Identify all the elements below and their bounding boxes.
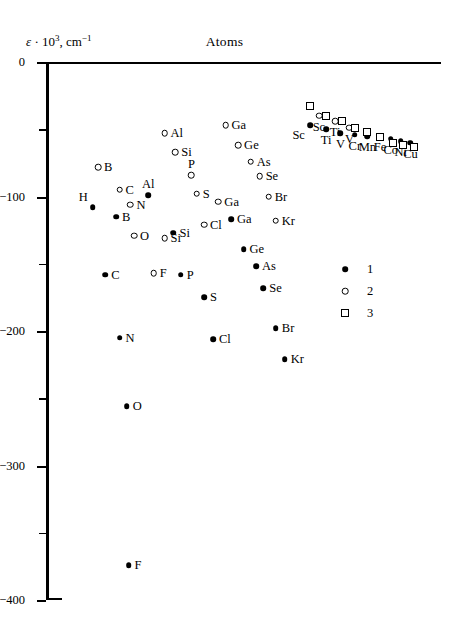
top-frame-line bbox=[46, 62, 441, 64]
data-point-open-square[interactable] bbox=[338, 117, 346, 125]
data-point-label: O bbox=[133, 400, 142, 413]
data-point-open-square[interactable] bbox=[351, 124, 359, 132]
data-point-label: Br bbox=[282, 322, 295, 335]
data-point-label: Ti bbox=[330, 126, 341, 139]
data-point-label: Ga bbox=[224, 196, 239, 209]
data-point-open-circle[interactable] bbox=[127, 201, 134, 208]
data-point-open-circle[interactable] bbox=[194, 191, 201, 198]
data-point-label: B bbox=[104, 161, 112, 174]
data-point-open-square[interactable] bbox=[363, 128, 371, 136]
data-point-label: Sc bbox=[292, 129, 305, 142]
data-point-open-circle[interactable] bbox=[172, 149, 179, 156]
data-point-filled-circle[interactable] bbox=[253, 264, 259, 270]
data-point-open-circle[interactable] bbox=[215, 199, 222, 206]
legend-label: 2 bbox=[367, 284, 373, 299]
data-point-filled-circle[interactable] bbox=[241, 246, 247, 252]
data-point-filled-circle[interactable] bbox=[117, 335, 123, 341]
chart-title: Atoms bbox=[0, 34, 449, 50]
plot-area: 0−100−200−300−400 HBCNOFAlSiPSClGaGeAsSe… bbox=[46, 62, 441, 600]
y-tick-label: 0 bbox=[19, 55, 25, 70]
data-point-label: Br bbox=[275, 190, 288, 203]
y-tick-label: −400 bbox=[0, 593, 25, 608]
data-point-label: Ge bbox=[250, 243, 265, 256]
y-tick-major bbox=[37, 331, 46, 333]
data-point-label: Al bbox=[142, 178, 155, 191]
data-point-label: S bbox=[203, 188, 210, 201]
data-point-filled-circle[interactable] bbox=[90, 204, 96, 210]
data-point-label: Ga bbox=[237, 213, 252, 226]
data-point-filled-circle[interactable] bbox=[126, 562, 132, 568]
legend-marker-open-circle bbox=[342, 288, 349, 295]
data-point-open-square[interactable] bbox=[306, 102, 314, 110]
data-point-label: H bbox=[79, 191, 88, 204]
y-tick-minor bbox=[39, 398, 46, 400]
data-point-open-circle[interactable] bbox=[247, 158, 254, 165]
data-point-label: Se bbox=[269, 282, 282, 295]
data-point-open-circle[interactable] bbox=[95, 164, 102, 171]
data-point-open-circle[interactable] bbox=[161, 130, 168, 137]
data-point-label: Ge bbox=[244, 139, 259, 152]
data-point-open-circle[interactable] bbox=[161, 235, 168, 242]
data-point-open-circle[interactable] bbox=[235, 142, 242, 149]
legend-row[interactable]: 3 bbox=[345, 302, 415, 324]
data-point-open-circle[interactable] bbox=[256, 173, 263, 180]
y-tick-major bbox=[37, 466, 46, 468]
legend-marker-filled-circle bbox=[342, 266, 348, 272]
legend-row[interactable]: 1 bbox=[345, 258, 415, 280]
data-point-label: O bbox=[140, 229, 149, 242]
data-point-open-circle[interactable] bbox=[131, 232, 138, 239]
data-point-label: C bbox=[111, 268, 119, 281]
data-point-filled-circle[interactable] bbox=[228, 217, 234, 223]
data-point-label: Sc bbox=[313, 121, 326, 134]
data-point-label: As bbox=[257, 155, 271, 168]
y-tick-label: −300 bbox=[0, 458, 25, 473]
data-point-open-square[interactable] bbox=[322, 112, 330, 120]
data-point-filled-circle[interactable] bbox=[210, 336, 216, 342]
y-tick-major bbox=[37, 197, 46, 199]
data-point-open-circle[interactable] bbox=[150, 270, 157, 277]
data-point-open-square[interactable] bbox=[399, 141, 407, 149]
y-tick-minor bbox=[39, 533, 46, 535]
legend-marker-open-square bbox=[341, 309, 349, 317]
legend-label: 3 bbox=[367, 306, 373, 321]
data-point-filled-circle[interactable] bbox=[273, 326, 279, 332]
y-axis-line bbox=[46, 62, 49, 600]
data-point-label: V bbox=[336, 138, 345, 151]
data-point-filled-circle[interactable] bbox=[260, 285, 266, 291]
data-point-open-circle[interactable] bbox=[116, 186, 123, 193]
data-point-filled-circle[interactable] bbox=[282, 356, 288, 362]
y-tick-major bbox=[37, 600, 46, 602]
y-tick-minor bbox=[39, 129, 46, 131]
data-point-open-circle[interactable] bbox=[222, 122, 229, 129]
data-point-filled-circle[interactable] bbox=[178, 272, 184, 278]
data-point-label: Cl bbox=[210, 218, 222, 231]
data-point-open-circle[interactable] bbox=[265, 193, 272, 200]
data-point-label: F bbox=[135, 559, 142, 572]
y-tick-label: −100 bbox=[0, 189, 25, 204]
data-point-filled-circle[interactable] bbox=[146, 192, 152, 198]
data-point-label: Al bbox=[171, 127, 184, 140]
data-point-label: As bbox=[262, 260, 276, 273]
data-point-filled-circle[interactable] bbox=[113, 214, 119, 220]
data-point-open-square[interactable] bbox=[389, 139, 397, 147]
data-point-label: N bbox=[136, 198, 145, 211]
data-point-label: B bbox=[122, 210, 130, 223]
data-point-open-square[interactable] bbox=[410, 143, 418, 151]
y-tick-major bbox=[37, 62, 46, 64]
data-point-open-square[interactable] bbox=[376, 133, 384, 141]
data-point-label: Cl bbox=[219, 333, 231, 346]
data-point-filled-circle[interactable] bbox=[201, 295, 207, 301]
legend: 123 bbox=[345, 258, 415, 324]
data-point-label: Si bbox=[179, 227, 189, 240]
y-tick-label: −200 bbox=[0, 324, 25, 339]
chart-page: ε · 103, cm−1 Atoms 0−100−200−300−400 HB… bbox=[0, 0, 449, 632]
data-point-label: P bbox=[187, 268, 194, 281]
data-point-open-circle[interactable] bbox=[201, 221, 208, 228]
data-point-open-circle[interactable] bbox=[188, 172, 195, 179]
data-point-open-circle[interactable] bbox=[273, 217, 280, 224]
data-point-filled-circle[interactable] bbox=[124, 404, 130, 410]
data-point-filled-circle[interactable] bbox=[102, 272, 108, 278]
axis-foot-line bbox=[46, 598, 62, 600]
legend-row[interactable]: 2 bbox=[345, 280, 415, 302]
y-tick-minor bbox=[39, 264, 46, 266]
